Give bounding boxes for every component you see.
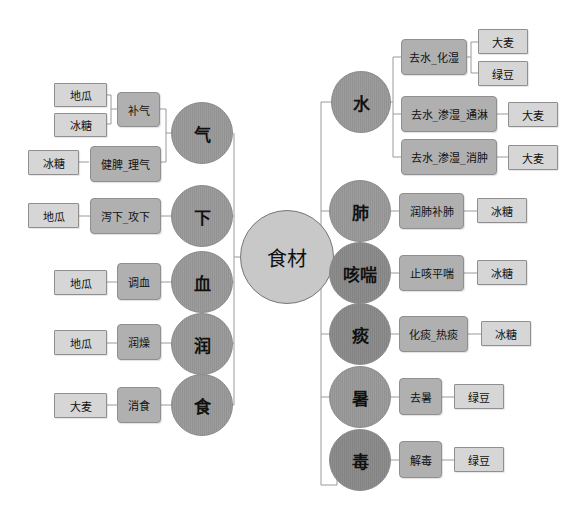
food-label: 绿豆: [468, 389, 490, 405]
food-label: 冰糖: [495, 326, 517, 342]
category-node-fei[interactable]: 肺: [329, 180, 391, 242]
effect-node-xiexia-gongxia[interactable]: 泻下_攻下: [90, 198, 161, 234]
effect-label: 健脾_理气: [101, 156, 151, 172]
category-label: 食: [194, 393, 211, 418]
effect-node-tiaoxue[interactable]: 调血: [117, 263, 161, 300]
effect-node-qushui-huashi[interactable]: 去水_化湿: [401, 39, 467, 75]
food-node[interactable]: 大麦: [508, 102, 558, 127]
category-node-shui[interactable]: 水: [331, 71, 391, 133]
food-node[interactable]: 大麦: [54, 393, 107, 418]
category-node-xia[interactable]: 下: [171, 185, 233, 247]
effect-label: 补气: [128, 102, 150, 118]
food-label: 大麦: [522, 107, 544, 123]
category-label: 润: [194, 332, 211, 357]
food-label: 地瓜: [70, 275, 92, 291]
effect-node-runzao[interactable]: 润燥: [117, 324, 161, 360]
food-label: 绿豆: [492, 66, 514, 82]
food-node[interactable]: 绿豆: [454, 384, 504, 409]
category-label: 水: [353, 90, 370, 115]
food-label: 地瓜: [43, 208, 65, 224]
effect-label: 去水_渗湿_消肿: [411, 149, 488, 165]
category-node-tan[interactable]: 痰: [329, 303, 391, 365]
food-label: 冰糖: [491, 265, 513, 281]
food-node[interactable]: 地瓜: [54, 83, 107, 107]
food-label: 大麦: [492, 34, 514, 50]
category-label: 毒: [352, 448, 369, 473]
category-node-kechuan[interactable]: 咳喘: [329, 242, 391, 304]
effect-label: 泻下_攻下: [101, 208, 151, 224]
effect-label: 调血: [128, 274, 150, 290]
effect-label: 润燥: [128, 334, 150, 350]
effect-node-qushu[interactable]: 去暑: [399, 378, 442, 415]
category-label: 下: [194, 204, 211, 229]
food-node[interactable]: 地瓜: [54, 330, 107, 355]
food-label: 大麦: [522, 150, 544, 166]
food-label: 冰糖: [491, 203, 513, 219]
food-label: 冰糖: [70, 117, 92, 133]
effect-node-qushui-shenshi-tonglin[interactable]: 去水_渗湿_通淋: [401, 96, 497, 132]
food-node[interactable]: 冰糖: [477, 260, 527, 285]
food-label: 地瓜: [70, 87, 92, 103]
category-node-run[interactable]: 润: [171, 313, 233, 375]
category-label: 暑: [352, 385, 369, 410]
food-node[interactable]: 大麦: [478, 29, 528, 54]
effect-node-buqi[interactable]: 补气: [117, 92, 160, 127]
food-node[interactable]: 地瓜: [28, 203, 79, 228]
effect-label: 去暑: [410, 389, 432, 405]
category-node-xue[interactable]: 血: [171, 251, 233, 313]
category-label: 痰: [352, 322, 369, 347]
food-node[interactable]: 冰糖: [477, 198, 527, 223]
effect-node-jianpi-liqi[interactable]: 健脾_理气: [90, 146, 161, 182]
effect-node-huatan-retan[interactable]: 化痰_热痰: [399, 316, 468, 352]
category-node-shu[interactable]: 暑: [329, 366, 391, 428]
effect-node-zhike-pingchuan[interactable]: 止咳平喘: [399, 255, 464, 291]
food-label: 大麦: [70, 398, 92, 414]
food-node[interactable]: 地瓜: [54, 270, 107, 295]
effect-node-runfei-bufei[interactable]: 润肺补肺: [399, 193, 464, 229]
effect-node-jiedu[interactable]: 解毒: [399, 441, 442, 478]
effect-label: 去水_渗湿_通淋: [411, 106, 488, 122]
food-label: 地瓜: [70, 335, 92, 351]
effect-label: 化痰_热痰: [409, 326, 459, 342]
category-label: 血: [194, 270, 211, 295]
center-label: 食材: [267, 243, 307, 272]
food-node[interactable]: 绿豆: [454, 447, 504, 472]
effect-label: 止咳平喘: [410, 265, 454, 281]
food-node[interactable]: 冰糖: [28, 150, 79, 175]
food-node[interactable]: 冰糖: [54, 113, 107, 137]
center-node[interactable]: 食材: [240, 210, 334, 304]
food-label: 绿豆: [468, 452, 490, 468]
effect-label: 润肺补肺: [410, 203, 454, 219]
category-node-shi[interactable]: 食: [171, 374, 233, 436]
effect-node-xiaoshi[interactable]: 消食: [117, 387, 161, 423]
category-label: 气: [194, 121, 211, 146]
food-node[interactable]: 大麦: [508, 145, 558, 170]
effect-label: 去水_化湿: [409, 49, 459, 65]
category-label: 咳喘: [343, 261, 377, 286]
food-node[interactable]: 绿豆: [478, 61, 528, 86]
effect-node-qushui-shenshi-xiaozhong[interactable]: 去水_渗湿_消肿: [401, 139, 497, 175]
effect-label: 解毒: [410, 452, 432, 468]
category-label: 肺: [352, 199, 369, 224]
effect-label: 消食: [128, 397, 150, 413]
category-node-qi[interactable]: 气: [171, 102, 233, 164]
food-node[interactable]: 冰糖: [481, 321, 531, 346]
category-node-du[interactable]: 毒: [329, 429, 391, 491]
food-label: 冰糖: [43, 155, 65, 171]
